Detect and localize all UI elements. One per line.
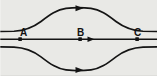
- point-b-marker: [78, 37, 82, 41]
- point-b-label: B: [77, 27, 84, 38]
- point-c-marker: [135, 37, 139, 41]
- point-c-label: C: [134, 27, 141, 38]
- point-a-marker: [18, 37, 22, 41]
- diagram-canvas: A B C: [0, 0, 157, 76]
- point-a-label: A: [20, 27, 27, 38]
- streamline-diagram: A B C: [0, 0, 157, 76]
